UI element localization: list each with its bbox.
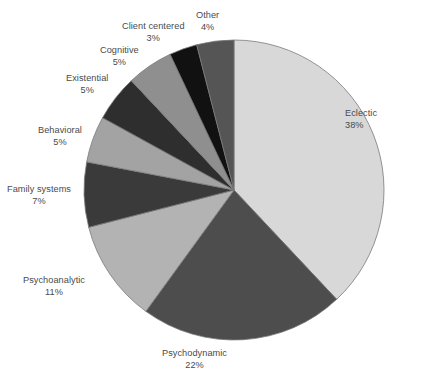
pie-slice-label-name: Existential — [66, 73, 108, 85]
pie-slice-label: Existential5% — [66, 73, 108, 96]
pie-slice-label-name: Client centered — [122, 21, 185, 33]
pie-slice-label: Client centered3% — [122, 21, 185, 44]
pie-slice-label-name: Psychodynamic — [162, 348, 227, 360]
pie-slice-label: Eclectic38% — [345, 108, 377, 131]
pie-slice-label-name: Behavioral — [38, 125, 82, 137]
pie-slice-label-value: 5% — [38, 137, 82, 149]
pie-chart: Eclectic38%Psychodynamic22%Psychoanalyti… — [0, 0, 423, 380]
pie-slice-label-value: 5% — [100, 57, 139, 69]
pie-slice-label-value: 7% — [7, 196, 71, 208]
pie-slice-label-value: 5% — [66, 85, 108, 97]
pie-slice-label-name: Psychoanalytic — [23, 275, 85, 287]
pie-slice-label-name: Family systems — [7, 184, 71, 196]
pie-slice-label: Psychodynamic22% — [162, 348, 227, 371]
pie-slice-label: Cognitive5% — [100, 45, 139, 68]
pie-slice-label: Psychoanalytic11% — [23, 275, 85, 298]
pie-slice-label: Behavioral5% — [38, 125, 82, 148]
pie-slice-label-value: 22% — [162, 360, 227, 372]
pie-slice-label: Family systems7% — [7, 184, 71, 207]
pie-slice-label-value: 4% — [196, 22, 219, 34]
pie-slice-label: Other4% — [196, 10, 219, 33]
pie-slice-label-name: Other — [196, 10, 219, 22]
pie-slice-label-value: 3% — [122, 33, 185, 45]
pie-slice-label-value: 11% — [23, 287, 85, 299]
pie-slice-label-name: Cognitive — [100, 45, 139, 57]
pie-slice-group — [84, 40, 384, 340]
pie-slice-label-name: Eclectic — [345, 108, 377, 120]
pie-slice-label-value: 38% — [345, 120, 377, 132]
